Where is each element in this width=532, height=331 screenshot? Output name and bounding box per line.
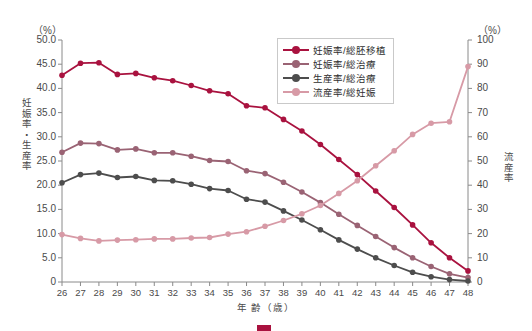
series-point — [170, 150, 176, 156]
series-point — [336, 157, 342, 163]
series-point — [318, 227, 324, 233]
series-point — [59, 180, 65, 186]
series-point — [299, 217, 305, 223]
series-point — [244, 103, 250, 109]
chart-figure: （%） （%） 妊娠率・生産率 流産率 年 齢（歳） 50.045.040.03… — [0, 0, 532, 331]
legend-item[interactable]: 生産率/総治療 — [283, 71, 386, 85]
series-point — [355, 172, 361, 178]
series-point — [133, 146, 139, 152]
series-point — [225, 159, 231, 165]
legend-marker-icon — [283, 72, 309, 84]
series-point — [96, 60, 102, 66]
series-point — [207, 88, 213, 94]
series-point — [355, 246, 361, 252]
series-point — [207, 158, 213, 164]
series-point — [244, 196, 250, 202]
series-line — [62, 67, 468, 241]
series-point — [133, 71, 139, 77]
series-point — [96, 141, 102, 147]
legend-label: 流産率/総妊娠 — [313, 85, 376, 99]
series-point — [207, 186, 213, 192]
series-point — [336, 237, 342, 243]
series-point — [465, 64, 471, 70]
legend-item[interactable]: 流産率/総妊娠 — [283, 85, 386, 99]
series-point — [391, 148, 397, 154]
series-point — [188, 181, 194, 187]
series-point — [281, 218, 287, 224]
legend-marker-icon — [283, 86, 309, 98]
series-point — [59, 73, 65, 79]
series-point — [133, 237, 139, 243]
series-point — [318, 142, 324, 148]
series-point — [428, 120, 434, 126]
series-point — [428, 264, 434, 270]
series-point — [281, 208, 287, 214]
series-point — [447, 271, 453, 277]
series-point — [299, 211, 305, 217]
series-point — [133, 174, 139, 180]
series-point — [373, 163, 379, 169]
series-point — [281, 117, 287, 123]
series-point — [188, 235, 194, 241]
series-point — [244, 168, 250, 174]
series-point — [59, 232, 65, 238]
series-point — [207, 235, 213, 241]
series-point — [373, 234, 379, 240]
series-point — [465, 268, 471, 274]
series-point — [410, 270, 416, 276]
series-point — [262, 224, 268, 230]
series-point — [262, 105, 268, 111]
series-point — [59, 150, 65, 156]
figure-caption — [0, 322, 532, 331]
series-point — [225, 91, 231, 97]
legend-label: 妊娠率/総胚移植 — [313, 43, 386, 57]
series-point — [115, 72, 121, 78]
series-point — [96, 170, 102, 176]
series-point — [447, 277, 453, 283]
series-point — [115, 175, 121, 181]
series-point — [262, 199, 268, 205]
series-point — [78, 140, 84, 146]
series-point — [299, 128, 305, 134]
legend-item[interactable]: 妊娠率/総治療 — [283, 57, 386, 71]
series-point — [115, 147, 121, 153]
series-point — [96, 238, 102, 244]
series-point — [428, 240, 434, 246]
series-point — [225, 188, 231, 194]
series-point — [447, 119, 453, 125]
series-point — [188, 153, 194, 159]
series-point — [152, 236, 158, 242]
series-point — [188, 83, 194, 89]
legend-item[interactable]: 妊娠率/総胚移植 — [283, 43, 386, 57]
series-point — [170, 178, 176, 184]
series-point — [355, 178, 361, 184]
series-point — [262, 171, 268, 177]
series-point — [336, 211, 342, 217]
series-point — [281, 180, 287, 186]
series-point — [170, 78, 176, 84]
legend-label: 妊娠率/総治療 — [313, 57, 376, 71]
series-point — [410, 222, 416, 228]
series-point — [447, 255, 453, 261]
legend-label: 生産率/総治療 — [313, 71, 376, 85]
series-point — [78, 236, 84, 242]
plot-area — [0, 0, 532, 331]
series-point — [373, 188, 379, 194]
legend-marker-icon — [283, 58, 309, 70]
series-point — [391, 205, 397, 211]
legend-marker-icon — [283, 44, 309, 56]
series-point — [410, 255, 416, 261]
series-point — [115, 237, 121, 243]
series-point — [428, 274, 434, 280]
series-point — [299, 189, 305, 195]
series-point — [152, 75, 158, 81]
caption-swatch — [257, 325, 271, 331]
series-point — [244, 229, 250, 235]
series-point — [391, 245, 397, 251]
series-point — [318, 203, 324, 209]
series-point — [373, 255, 379, 261]
legend: 妊娠率/総胚移植妊娠率/総治療生産率/総治療流産率/総妊娠 — [277, 38, 394, 104]
series-point — [78, 60, 84, 66]
series-point — [391, 263, 397, 269]
series-point — [78, 172, 84, 178]
